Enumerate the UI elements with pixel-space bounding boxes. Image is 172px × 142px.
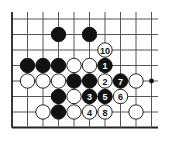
white-stone-2: 2 bbox=[98, 74, 112, 88]
move-number: 1 bbox=[102, 61, 107, 71]
black-stone bbox=[51, 58, 65, 72]
stone-circle bbox=[67, 74, 81, 88]
move-number: 2 bbox=[102, 77, 107, 87]
white-stone bbox=[67, 89, 81, 103]
white-stone-10: 10 bbox=[98, 43, 112, 57]
white-stone bbox=[51, 74, 65, 88]
white-stone bbox=[129, 74, 143, 88]
white-stone bbox=[67, 105, 81, 119]
stone-circle bbox=[36, 105, 50, 119]
go-board-diagram: 1012735648 bbox=[0, 0, 172, 142]
black-stone bbox=[67, 74, 81, 88]
black-stone-7: 7 bbox=[113, 74, 127, 88]
white-stone-4: 4 bbox=[82, 105, 96, 119]
stone-circle bbox=[51, 74, 65, 88]
move-number: 6 bbox=[118, 92, 123, 102]
stone-circle bbox=[20, 74, 34, 88]
black-stone bbox=[20, 58, 34, 72]
move-number: 5 bbox=[102, 92, 107, 102]
stone-circle bbox=[20, 58, 34, 72]
stone-circle bbox=[51, 105, 65, 119]
stone-circle bbox=[82, 74, 96, 88]
white-stone bbox=[20, 74, 34, 88]
stone-circle bbox=[51, 27, 65, 41]
star-point bbox=[149, 79, 154, 84]
move-number: 7 bbox=[118, 77, 123, 87]
white-stone bbox=[82, 58, 96, 72]
black-stone-5: 5 bbox=[98, 89, 112, 103]
black-stone-1: 1 bbox=[98, 58, 112, 72]
stone-circle bbox=[129, 74, 143, 88]
move-number: 10 bbox=[100, 46, 110, 56]
black-stone bbox=[82, 74, 96, 88]
stone-circle bbox=[82, 58, 96, 72]
black-stone bbox=[51, 27, 65, 41]
move-number: 4 bbox=[87, 108, 92, 118]
black-stone bbox=[51, 105, 65, 119]
white-stone-6: 6 bbox=[113, 89, 127, 103]
black-stone-3: 3 bbox=[82, 89, 96, 103]
stone-circle bbox=[67, 105, 81, 119]
stones-layer: 1012735648 bbox=[20, 27, 143, 119]
move-number: 3 bbox=[87, 92, 92, 102]
white-stone bbox=[67, 58, 81, 72]
white-stone bbox=[36, 74, 50, 88]
stone-circle bbox=[67, 58, 81, 72]
move-number: 8 bbox=[102, 108, 107, 118]
black-stone bbox=[36, 58, 50, 72]
white-stone bbox=[129, 105, 143, 119]
black-stone bbox=[82, 27, 96, 41]
stone-circle bbox=[129, 105, 143, 119]
star-points bbox=[149, 79, 154, 84]
white-stone bbox=[36, 105, 50, 119]
stone-circle bbox=[67, 89, 81, 103]
black-stone bbox=[51, 89, 65, 103]
stone-circle bbox=[51, 58, 65, 72]
stone-circle bbox=[82, 27, 96, 41]
stone-circle bbox=[36, 74, 50, 88]
stone-circle bbox=[36, 58, 50, 72]
white-stone-8: 8 bbox=[98, 105, 112, 119]
stone-circle bbox=[51, 89, 65, 103]
